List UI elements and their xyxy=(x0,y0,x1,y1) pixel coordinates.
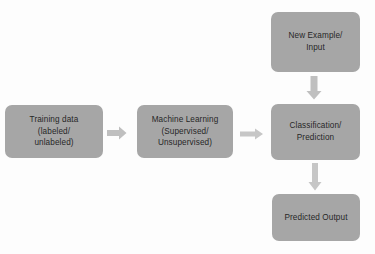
diagram-canvas: Training data (labeled/ unlabeled) Machi… xyxy=(0,0,375,254)
arrow-right-machine-learning-to-classification-icon xyxy=(240,127,264,141)
arrow-right-training-to-machine-learning-icon xyxy=(107,125,127,141)
node-machine-learning-label: Machine Learning (Supervised/ Unsupervis… xyxy=(141,114,229,149)
node-predicted-output-label: Predicted Output xyxy=(276,212,356,224)
node-new-example-label: New Example/ Input xyxy=(275,30,356,53)
node-training-data-label: Training data (labeled/ unlabeled) xyxy=(9,114,99,149)
node-machine-learning[interactable]: Machine Learning (Supervised/ Unsupervis… xyxy=(137,105,233,158)
node-training-data[interactable]: Training data (labeled/ unlabeled) xyxy=(5,105,103,158)
node-new-example[interactable]: New Example/ Input xyxy=(271,12,360,72)
node-classification-label: Classification/ Prediction xyxy=(275,120,356,143)
node-classification[interactable]: Classification/ Prediction xyxy=(271,104,360,160)
arrow-down-new-example-to-classification-icon xyxy=(305,76,323,100)
arrow-down-classification-to-predicted-output-icon xyxy=(307,163,323,191)
node-predicted-output[interactable]: Predicted Output xyxy=(272,194,360,241)
